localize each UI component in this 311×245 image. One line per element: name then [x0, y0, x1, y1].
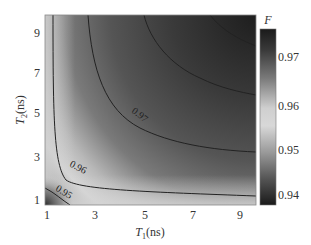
- heatmap-area: 0.97 0.96 0.95: [45, 15, 256, 205]
- y-tick: 1: [34, 193, 40, 207]
- colorbar-title: F: [263, 13, 272, 27]
- x-tick: 1: [44, 208, 50, 222]
- x-axis-label: T1(ns): [135, 225, 164, 241]
- colorbar-tick: 0.94: [278, 188, 299, 202]
- y-tick: 3: [34, 150, 40, 164]
- y-axis-label: T2(ns): [13, 95, 29, 124]
- x-tick: 7: [190, 208, 196, 222]
- colorbar: F 0.97 0.96 0.95 0.94: [260, 13, 299, 205]
- x-axis: 1 3 5 7 9 T1(ns): [44, 208, 243, 241]
- colorbar-tick: 0.95: [278, 143, 299, 157]
- colorbar-tick: 0.96: [278, 99, 299, 113]
- y-tick: 5: [34, 106, 40, 120]
- x-tick: 9: [237, 208, 243, 222]
- y-tick: 9: [34, 26, 40, 40]
- y-axis: 9 7 5 3 1 T2(ns): [13, 26, 40, 207]
- x-tick: 3: [92, 208, 98, 222]
- colorbar-scale: [260, 29, 276, 205]
- x-tick: 5: [142, 208, 148, 222]
- figure: 0.97 0.96 0.95 1 3 5 7 9 T1(ns) 9 7 5 3 …: [0, 0, 311, 245]
- colorbar-tick: 0.97: [278, 50, 299, 64]
- y-tick: 7: [34, 66, 40, 80]
